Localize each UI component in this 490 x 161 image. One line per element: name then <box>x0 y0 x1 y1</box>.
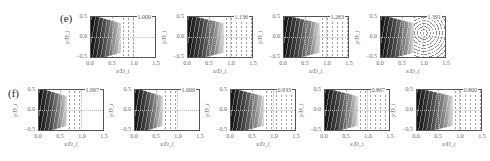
plot-area <box>38 89 104 131</box>
xtick: 1.5 <box>342 60 356 66</box>
xtick: 0.0 <box>31 133 45 139</box>
grid-line <box>135 110 199 111</box>
xtick: 1.0 <box>171 133 185 139</box>
xtick: 1.0 <box>127 60 141 66</box>
y-axis-label: y/D_i <box>108 104 114 117</box>
grid-line <box>39 110 103 111</box>
ytick: 0.0 <box>115 106 131 112</box>
y-axis-label: y/D_i <box>204 104 210 117</box>
xtick: 0.5 <box>149 133 163 139</box>
xtick: 0.0 <box>223 133 237 139</box>
xtick: 1.0 <box>224 60 238 66</box>
xtick: 0.5 <box>245 133 259 139</box>
plot-area <box>187 16 253 58</box>
xtick: 1.0 <box>75 133 89 139</box>
contour-panel: 0.800 0.5 0.0 −0.5 0.0 0.5 1.0 1.5 y/D_i… <box>416 89 482 131</box>
contour-panel: 1.000 0.5 0.0 −0.5 0.0 0.5 1.0 1.5 y/D_i… <box>90 16 156 58</box>
contour-panel: 0.933 0.5 0.0 −0.5 0.0 0.5 1.0 1.5 y/D_i… <box>230 89 296 131</box>
panel-value: 1.067 <box>85 87 101 93</box>
ytick: −0.5 <box>305 126 321 132</box>
xtick: 1.0 <box>453 133 467 139</box>
xtick: 1.5 <box>439 60 453 66</box>
y-axis-label: y/D_i <box>354 31 360 44</box>
ytick: −0.5 <box>71 53 87 59</box>
ytick: 0.0 <box>71 33 87 39</box>
xtick: 1.0 <box>361 133 375 139</box>
grid-line <box>417 110 481 111</box>
ytick: 0.0 <box>397 106 413 112</box>
ytick: 0.5 <box>168 13 184 19</box>
ytick: −0.5 <box>264 53 280 59</box>
panel-value: 1.263 <box>330 14 346 20</box>
contour-panel: 0.867 0.5 0.0 −0.5 0.0 0.5 1.0 1.5 y/D_i… <box>324 89 390 131</box>
ytick: 0.5 <box>211 86 227 92</box>
ytick: 0.5 <box>264 13 280 19</box>
x-axis-label: x/D_i <box>442 141 455 147</box>
xtick: 0.5 <box>395 60 409 66</box>
ytick: 0.0 <box>305 106 321 112</box>
ytick: 0.5 <box>305 86 321 92</box>
x-axis-label: x/D_i <box>309 68 322 74</box>
xtick: 1.0 <box>267 133 281 139</box>
xtick: 1.5 <box>149 60 163 66</box>
xtick: 0.0 <box>127 133 141 139</box>
plot-area <box>90 16 156 58</box>
xtick: 1.5 <box>289 133 303 139</box>
grid-line <box>188 37 252 38</box>
x-axis-label: x/D_i <box>64 141 77 147</box>
x-axis-label: x/D_i <box>160 141 173 147</box>
y-axis-label: y/D_i <box>64 31 70 44</box>
ytick: −0.5 <box>19 126 35 132</box>
y-axis-label: y/D_i <box>298 104 304 117</box>
contour-panel: 1.000 0.5 0.0 −0.5 0.0 0.5 1.0 1.5 y/D_i… <box>134 89 200 131</box>
plot-area <box>283 16 349 58</box>
grid-line <box>91 37 155 38</box>
y-axis-label: y/D_i <box>161 31 167 44</box>
ytick: 0.0 <box>361 33 377 39</box>
ytick: 0.0 <box>211 106 227 112</box>
ytick: 0.5 <box>71 13 87 19</box>
xtick: 0.0 <box>409 133 423 139</box>
xtick: 1.5 <box>246 60 260 66</box>
y-axis-label: y/D_i <box>257 31 263 44</box>
plot-area <box>380 16 446 58</box>
grid-line <box>231 110 295 111</box>
panel-value: 1.136 <box>234 14 250 20</box>
contour-panel: 1.136 0.5 0.0 −0.5 0.0 0.5 1.0 1.5 y/D_i… <box>187 16 253 58</box>
x-axis-label: x/D_i <box>116 68 129 74</box>
ytick: 0.0 <box>264 33 280 39</box>
x-axis-label: x/D_i <box>256 141 269 147</box>
ytick: −0.5 <box>211 126 227 132</box>
contour-panel: 1.391 0.5 0.0 −0.5 0.0 0.5 1.0 1.5 y/D_i… <box>380 16 446 58</box>
row-label: (f) <box>8 87 19 99</box>
ytick: 0.5 <box>115 86 131 92</box>
panel-value: 1.391 <box>427 14 443 20</box>
plot-area <box>324 89 390 131</box>
xtick: 0.5 <box>105 60 119 66</box>
xtick: 0.5 <box>339 133 353 139</box>
ytick: −0.5 <box>397 126 413 132</box>
ytick: −0.5 <box>115 126 131 132</box>
ytick: 0.0 <box>168 33 184 39</box>
panel-value: 1.000 <box>181 87 197 93</box>
xtick: 1.5 <box>97 133 111 139</box>
panel-value: 0.933 <box>277 87 293 93</box>
xtick: 1.5 <box>475 133 489 139</box>
plot-area <box>230 89 296 131</box>
ytick: −0.5 <box>361 53 377 59</box>
xtick: 0.5 <box>202 60 216 66</box>
xtick: 1.5 <box>193 133 207 139</box>
grid-line <box>325 110 389 111</box>
xtick: 0.0 <box>83 60 97 66</box>
x-axis-label: x/D_i <box>406 68 419 74</box>
panel-value: 0.800 <box>463 87 479 93</box>
ytick: 0.0 <box>19 106 35 112</box>
y-axis-label: y/D_i <box>12 104 18 117</box>
xtick: 0.5 <box>53 133 67 139</box>
xtick: 0.0 <box>276 60 290 66</box>
grid-line <box>284 37 348 38</box>
grid-line <box>381 37 445 38</box>
y-axis-label: y/D_i <box>390 104 396 117</box>
contour-panel: 1.067 0.5 0.0 −0.5 0.0 0.5 1.0 1.5 y/D_i… <box>38 89 104 131</box>
xtick: 0.5 <box>298 60 312 66</box>
